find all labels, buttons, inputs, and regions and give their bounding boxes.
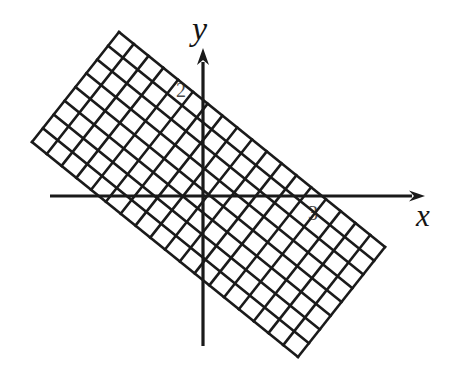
- lattice-line: [91, 80, 178, 190]
- y-axis-tick-label-2: 2: [176, 80, 186, 100]
- coordinate-plane-figure: y x 2 3: [0, 0, 459, 384]
- lattice-line: [224, 187, 311, 297]
- lattice-line: [76, 68, 163, 178]
- lattice-line: [283, 235, 370, 345]
- lattice-line: [195, 163, 282, 273]
- x-axis-label: x: [416, 200, 430, 231]
- lattice-line: [254, 211, 341, 321]
- lattice-line: [298, 247, 385, 357]
- figure-canvas: [0, 0, 459, 384]
- lattice-line: [106, 92, 193, 202]
- coordinate-axes: [50, 48, 425, 346]
- lattice-line: [47, 44, 134, 154]
- lattice-line: [32, 32, 119, 142]
- lattice-line: [135, 116, 222, 226]
- lattice-line: [209, 175, 296, 285]
- y-axis-label: y: [192, 12, 207, 46]
- lattice-line: [150, 128, 237, 238]
- x-axis-tick-label-3: 3: [308, 203, 318, 223]
- lattice-line: [62, 56, 149, 166]
- lattice-line: [180, 151, 267, 261]
- lattice-line: [268, 223, 355, 333]
